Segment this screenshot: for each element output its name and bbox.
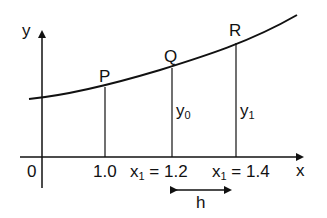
tick-label-2: x1 = 1.2 (130, 163, 188, 182)
point-r-label: R (229, 22, 241, 39)
curve-step-diagram: y x 0 P Q R y0 y1 1.0 x1 = 1.2 x1 = 1.4 … (0, 0, 327, 218)
tick-label-1: 1.0 (93, 163, 117, 180)
ordinate-y0-label: y0 (176, 102, 191, 121)
origin-label: 0 (27, 163, 36, 180)
step-h-label: h (196, 194, 205, 211)
curve (29, 15, 297, 99)
tick-label-3: x1 = 1.4 (212, 163, 270, 182)
diagram-graphics (0, 0, 327, 218)
point-p-label: P (99, 68, 110, 85)
y-axis-label: y (22, 22, 31, 39)
point-q-label: Q (164, 48, 177, 65)
x-axis-label: x (296, 162, 305, 179)
ordinate-y1-label: y1 (240, 102, 255, 121)
